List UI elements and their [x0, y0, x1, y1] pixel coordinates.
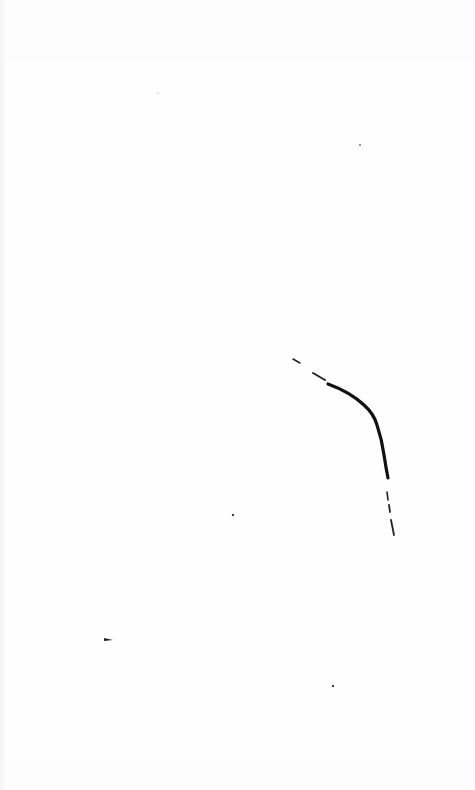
scanned-page	[0, 0, 475, 790]
speck-marks	[104, 92, 361, 687]
pen-stroke-curve-icon	[293, 359, 394, 535]
speck-mark	[359, 144, 361, 146]
speck-mark	[157, 92, 158, 93]
speck-mark	[332, 685, 334, 687]
ink-marks	[0, 0, 475, 790]
speck-mark	[232, 514, 234, 516]
speck-mark	[104, 638, 113, 641]
